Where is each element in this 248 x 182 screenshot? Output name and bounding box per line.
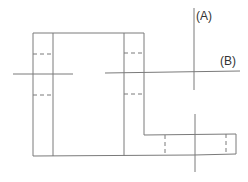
centerline-b — [105, 71, 240, 73]
label-a: (A) — [196, 9, 212, 23]
technical-drawing: (A) (B) — [0, 0, 248, 182]
label-b: (B) — [220, 54, 236, 68]
